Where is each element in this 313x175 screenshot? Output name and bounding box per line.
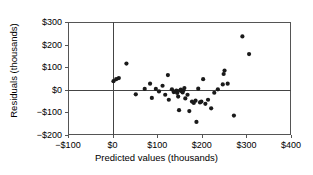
data-point	[247, 52, 251, 56]
y-axis-title: Residuals (thousands)	[8, 6, 19, 136]
data-point	[199, 99, 203, 103]
data-point	[176, 94, 180, 98]
data-point	[182, 86, 186, 90]
data-point	[193, 99, 197, 103]
y-tick-label: $100	[20, 62, 62, 72]
y-tick-label: $200	[20, 40, 62, 50]
x-tick-label: −$100	[48, 140, 88, 150]
data-point	[185, 93, 189, 97]
data-point	[187, 109, 191, 113]
data-point	[167, 98, 171, 102]
data-point	[160, 84, 164, 88]
x-axis-title: Predicted values (thousands)	[0, 152, 313, 163]
data-point	[226, 82, 230, 86]
y-tick-label: $300	[20, 17, 62, 27]
data-point	[157, 89, 161, 93]
x-tick-label: $200	[182, 140, 222, 150]
data-point	[222, 68, 226, 72]
data-point	[117, 76, 121, 80]
data-point	[163, 93, 167, 97]
data-point	[150, 96, 154, 100]
data-point	[216, 87, 220, 91]
data-point	[143, 87, 147, 91]
data-point	[232, 113, 236, 117]
y-tick-label: $0	[20, 85, 62, 95]
plot-frame	[69, 23, 291, 135]
data-point	[134, 92, 138, 96]
x-tick-label: $0	[93, 140, 133, 150]
data-point	[201, 77, 205, 81]
x-tick-label: $100	[137, 140, 177, 150]
data-point	[177, 108, 181, 112]
data-point	[240, 34, 244, 38]
data-point	[166, 73, 170, 77]
y-tick-label: −$200	[20, 130, 62, 140]
data-point	[206, 98, 210, 102]
x-tick-label: $400	[271, 140, 311, 150]
data-point	[212, 91, 216, 95]
data-point	[124, 61, 128, 65]
data-point	[196, 87, 200, 91]
data-point	[221, 82, 225, 86]
y-tick-label: −$100	[20, 107, 62, 117]
x-tick-label: $300	[226, 140, 266, 150]
data-point	[183, 96, 187, 100]
data-point	[148, 82, 152, 86]
data-point	[194, 120, 198, 124]
residual-scatter-figure: Residuals (thousands) Predicted values (…	[0, 0, 313, 175]
data-point	[209, 106, 213, 110]
data-point	[203, 102, 207, 106]
